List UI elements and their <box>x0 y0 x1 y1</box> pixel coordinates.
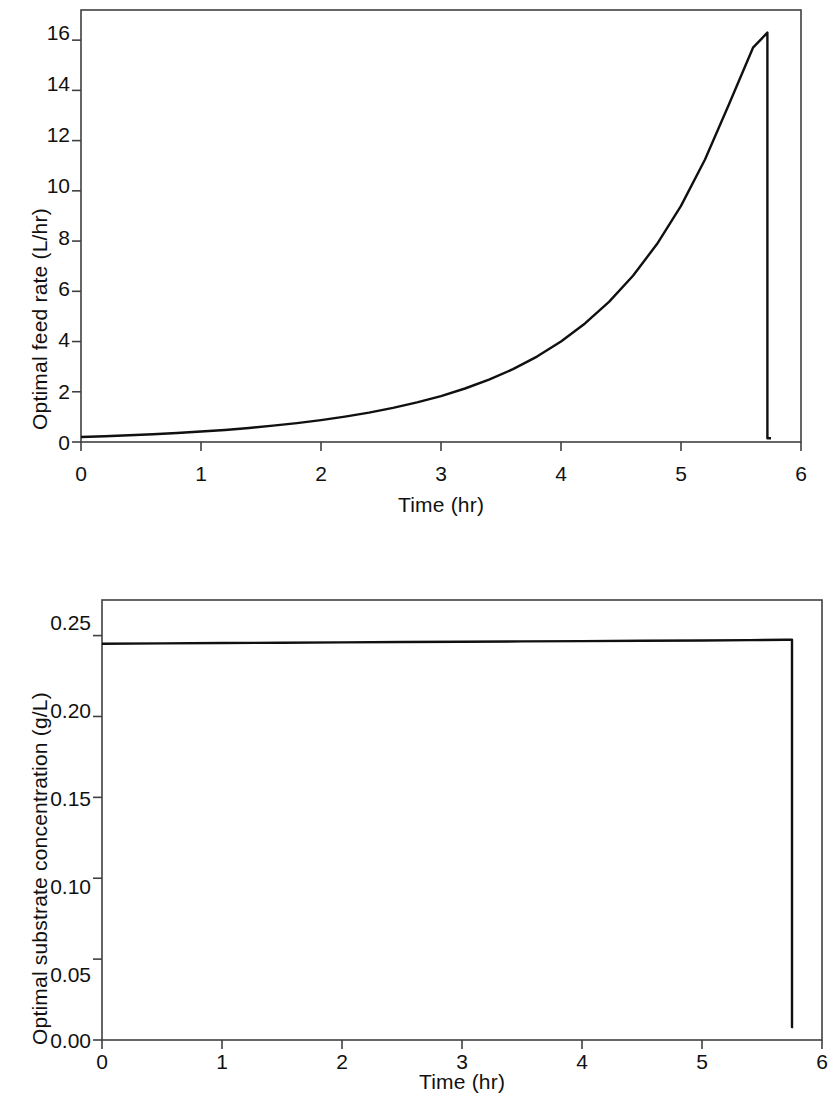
y-axis-title: Optimal substrate concentration (g/L) <box>28 692 52 1045</box>
data-series-line <box>102 640 793 1027</box>
chart-panel-substrate: 0.25 0.20 0.15 0.10 0.05 0.00 0 1 2 3 4 … <box>0 553 826 1113</box>
y-tick-label: 16 <box>8 21 70 45</box>
x-tick-label: 1 <box>171 462 231 486</box>
data-series-line <box>81 33 771 439</box>
y-tick-label: 12 <box>8 123 70 147</box>
x-tick-label: 3 <box>411 462 471 486</box>
y-axis-title: Optimal feed rate (L/hr) <box>28 208 52 430</box>
y-tick-label: 14 <box>8 72 70 96</box>
x-axis-title: Time (hr) <box>362 1070 562 1094</box>
plot-frame <box>81 10 801 442</box>
x-tick-label: 6 <box>771 462 831 486</box>
x-tick-label: 1 <box>192 1050 252 1074</box>
x-tick-label: 2 <box>291 462 351 486</box>
x-tick-label: 0 <box>72 1050 132 1074</box>
x-tick-label: 0 <box>51 462 111 486</box>
x-tick-label: 6 <box>792 1050 832 1074</box>
chart-panel-feed-rate: 16 14 12 10 8 6 4 2 0 0 1 2 3 4 5 6 Opti… <box>0 0 826 553</box>
x-tick-label: 5 <box>672 1050 732 1074</box>
y-tick-label: 0 <box>8 431 70 455</box>
x-tick-label: 4 <box>531 462 591 486</box>
plot-frame <box>102 600 822 1040</box>
x-axis-title: Time (hr) <box>341 493 541 517</box>
y-tick-label: 10 <box>8 174 70 198</box>
x-tick-label: 5 <box>651 462 711 486</box>
substrate-plot-area <box>0 553 826 1113</box>
y-tick-label: 0.25 <box>6 611 91 635</box>
